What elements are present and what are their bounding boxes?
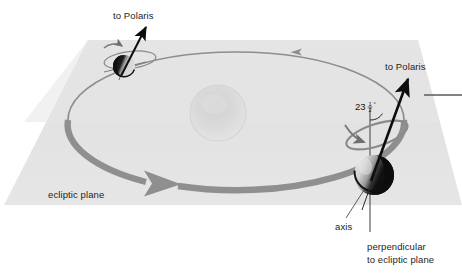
perpendicular-label-line2: to ecliptic plane — [367, 254, 434, 265]
polaris-label-far: to Polaris — [113, 10, 154, 21]
polaris-label-near: to Polaris — [385, 61, 426, 72]
ecliptic-plane-label: ecliptic plane — [48, 189, 104, 200]
tilt-fraction-numerator: 1 — [369, 101, 372, 107]
sun — [190, 85, 246, 141]
axis-label: axis — [335, 221, 352, 232]
tilt-fraction-denominator: 2 — [369, 107, 372, 113]
perpendicular-label-line1: perpendicular — [367, 241, 426, 252]
astronomy-diagram-figure: to Polaris to Polaris — [0, 0, 462, 273]
degree-symbol: ° — [373, 101, 375, 107]
tilt-value: 23 — [355, 101, 366, 112]
sun-highlight — [201, 94, 227, 114]
diagram-canvas: to Polaris to Polaris — [0, 0, 462, 273]
